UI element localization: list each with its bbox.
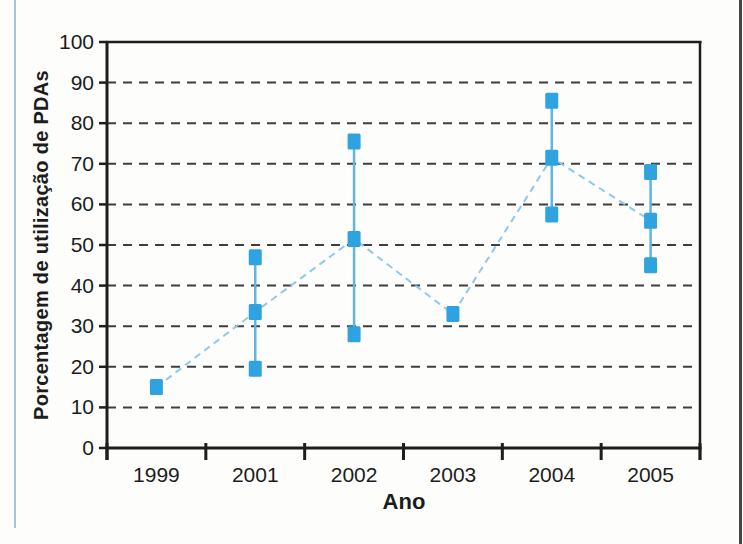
y-tick-label: 90 [71,71,94,94]
x-tick-label: 2004 [528,463,575,486]
x-tick-label: 2005 [627,463,674,486]
y-tick-label: 30 [71,314,94,337]
x-axis-title: Ano [383,489,426,515]
data-point-marker [644,257,657,273]
data-point-marker [249,304,262,320]
data-point-marker [446,306,459,322]
data-point-marker [545,93,558,109]
y-tick-label: 80 [71,111,94,134]
y-tick-label: 100 [59,30,94,53]
data-point-marker [545,207,558,223]
trend-line [156,158,650,387]
data-point-marker [644,164,657,180]
y-axis-title: Porcentagem de utilização de PDAs [30,70,53,420]
x-tick-label: 1999 [133,463,180,486]
y-tick-label: 0 [82,436,94,459]
y-tick-label: 50 [71,233,94,256]
y-tick-label: 20 [71,355,94,378]
figure-page: { "chart_data": { "type": "scatter", "ti… [0,0,743,544]
data-point-marker [348,326,361,342]
data-point-marker [150,379,163,395]
data-point-marker [348,133,361,149]
data-point-marker [644,213,657,229]
y-tick-label: 70 [71,152,94,175]
y-tick-label: 40 [71,274,94,297]
y-tick-label: 60 [71,192,94,215]
data-point-marker [249,361,262,377]
x-tick-label: 2002 [331,463,378,486]
chart-canvas: 0102030405060708090100199920012002200320… [0,0,743,544]
data-point-marker [545,150,558,166]
y-tick-label: 10 [71,395,94,418]
data-point-marker [249,249,262,265]
x-tick-label: 2001 [232,463,279,486]
data-point-marker [348,231,361,247]
x-tick-label: 2003 [430,463,477,486]
